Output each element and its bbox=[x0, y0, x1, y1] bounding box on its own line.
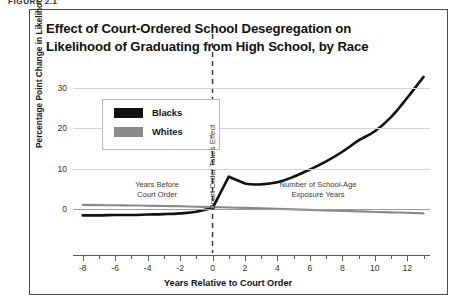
x-tick-major bbox=[245, 255, 246, 261]
x-tick-label: 8 bbox=[340, 263, 345, 273]
x-tick-minor bbox=[99, 255, 100, 259]
x-tick-label: 4 bbox=[275, 263, 280, 273]
figure-container: FIGURE 2.1 Effect of Court-Ordered Schoo… bbox=[0, 0, 456, 307]
x-tick-major bbox=[115, 255, 116, 261]
chart-title-line-1: Effect of Court-Ordered School Desegrega… bbox=[46, 20, 416, 38]
gridline bbox=[73, 169, 430, 170]
figure-number: FIGURE 2.1 bbox=[8, 0, 58, 6]
x-tick-minor bbox=[131, 255, 132, 259]
x-tick-major bbox=[277, 255, 278, 261]
x-tick-major bbox=[83, 255, 84, 261]
x-tick-minor bbox=[229, 255, 230, 259]
y-tick-label: 10 bbox=[57, 164, 67, 174]
legend-swatch-blacks bbox=[114, 108, 143, 118]
x-tick-minor bbox=[164, 255, 165, 259]
annotation-court-order-line: Court Order Takes Effect bbox=[208, 124, 217, 210]
x-tick-label: 0 bbox=[210, 263, 215, 273]
y-tick-label: 20 bbox=[57, 123, 67, 133]
x-tick-minor bbox=[359, 255, 360, 259]
x-tick-major bbox=[213, 255, 214, 261]
y-tick-label: 0 bbox=[62, 204, 67, 214]
x-tick-minor bbox=[326, 255, 327, 259]
x-tick-label: -4 bbox=[144, 263, 152, 273]
x-axis-line bbox=[73, 255, 430, 256]
x-tick-label: 12 bbox=[403, 263, 413, 273]
zero-line bbox=[73, 209, 430, 210]
x-tick-label: 2 bbox=[243, 263, 248, 273]
x-tick-label: 6 bbox=[308, 263, 313, 273]
legend: Blacks Whites bbox=[102, 99, 220, 150]
gridline bbox=[73, 88, 430, 89]
x-tick-label: -2 bbox=[176, 263, 184, 273]
y-tick-label: 30 bbox=[57, 83, 67, 93]
x-tick-major bbox=[180, 255, 181, 261]
chart-title: Effect of Court-Ordered School Desegrega… bbox=[46, 20, 416, 56]
legend-label-blacks: Blacks bbox=[152, 107, 182, 118]
annotation-years-before: Years Before Court Order bbox=[121, 180, 193, 201]
legend-swatch-whites bbox=[114, 127, 143, 137]
x-tick-major bbox=[342, 255, 343, 261]
x-tick-label: -6 bbox=[111, 263, 119, 273]
x-tick-major bbox=[148, 255, 149, 261]
x-tick-minor bbox=[294, 255, 295, 259]
x-tick-minor bbox=[424, 255, 425, 259]
x-axis-label: Years Relative to Court Order bbox=[0, 278, 456, 288]
x-tick-label: 10 bbox=[370, 263, 380, 273]
annotation-exposure-years: Number of School-Age Exposure Years bbox=[266, 180, 370, 201]
x-tick-minor bbox=[391, 255, 392, 259]
x-tick-major bbox=[375, 255, 376, 261]
chart-title-line-2: Likelihood of Graduating from High Schoo… bbox=[46, 38, 416, 56]
x-tick-major bbox=[407, 255, 408, 261]
x-tick-minor bbox=[261, 255, 262, 259]
x-tick-label: -8 bbox=[79, 263, 87, 273]
x-tick-minor bbox=[196, 255, 197, 259]
x-tick-major bbox=[310, 255, 311, 261]
legend-label-whites: Whites bbox=[152, 126, 183, 137]
legend-item-blacks: Blacks bbox=[114, 107, 219, 118]
legend-item-whites: Whites bbox=[114, 126, 219, 137]
y-axis-label: Percentage Point Change in Likelihood of… bbox=[34, 0, 45, 148]
